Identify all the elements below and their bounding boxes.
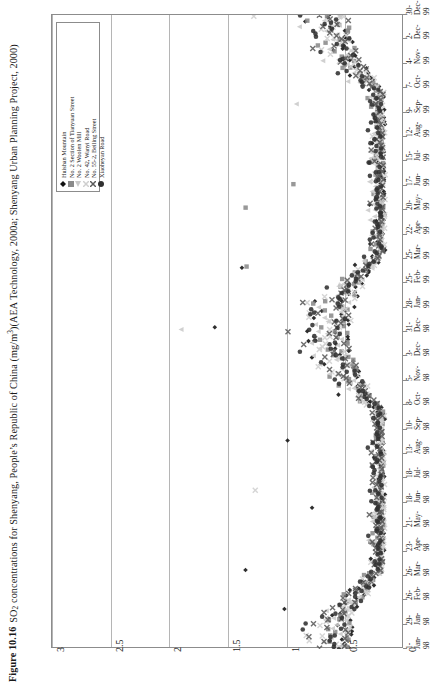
data-point: [298, 349, 303, 354]
legend-item-2: No. 2 Woolen Mill: [75, 27, 82, 187]
data-point: [379, 102, 384, 107]
x-tick-mark-20: [403, 160, 407, 161]
x-tick-mark-12: [403, 355, 407, 356]
data-point: [305, 18, 309, 22]
data-point: [343, 317, 348, 322]
data-point: [339, 337, 344, 342]
data-point: [368, 141, 373, 146]
cross-marker-icon: [90, 180, 97, 187]
data-point: [368, 488, 373, 493]
data-point: [379, 184, 384, 189]
data-point: [320, 634, 325, 639]
y-tick-label-3: 3: [55, 647, 66, 652]
legend-item-label: No. 2 Section of Tianyuan Street: [68, 97, 75, 178]
data-point: [373, 488, 378, 493]
data-point: [377, 170, 382, 175]
data-point: [377, 241, 382, 246]
x-tick-mark-5: [403, 526, 407, 527]
data-point: [348, 73, 353, 78]
x-tick-mark-9: [403, 429, 407, 430]
x-tick-mark-22: [403, 112, 407, 113]
data-point: [366, 445, 371, 450]
x-tick-label-5: 21-May-98: [406, 511, 431, 527]
x-tick-mark-24: [403, 63, 407, 64]
data-point: [352, 368, 357, 373]
data-point: [332, 642, 337, 647]
data-point: [329, 20, 334, 25]
data-point: [369, 569, 374, 574]
x-tick-label-21: 12-Aug-99: [406, 122, 431, 137]
data-point: [372, 86, 377, 91]
data-point: [359, 599, 364, 604]
data-point: [346, 18, 351, 23]
data-point: [342, 61, 347, 66]
x-tick-label-12: 3-Dec-98: [406, 342, 431, 356]
data-point: [339, 291, 344, 296]
legend-item-0: Huishan Mountain: [60, 27, 67, 187]
data-point: [351, 386, 356, 391]
x-tick-mark-15: [403, 282, 407, 283]
data-point: [343, 297, 348, 302]
data-point: [243, 568, 248, 573]
data-point: [367, 585, 372, 590]
data-point: [371, 235, 376, 240]
chart-area: 00.511.522.53 1-Jan-9829-Jan-9826-Feb-98…: [0, 0, 442, 684]
x-tick-mark-16: [403, 258, 407, 259]
x-tick-label-26: 30-Dec-99: [406, 1, 431, 15]
legend-item-label: Xiaoheyan Road: [98, 137, 105, 178]
data-point: [300, 627, 305, 632]
data-point: [328, 346, 333, 351]
x-tick-label-22: 9-Sep-99: [406, 99, 431, 113]
data-point: [212, 325, 217, 330]
data-point: [340, 616, 345, 621]
data-point: [313, 338, 318, 343]
data-point: [366, 574, 371, 579]
data-point: [360, 74, 365, 79]
x-tick-label-8: 13-Aug-98: [406, 439, 431, 454]
data-point: [294, 101, 299, 106]
data-point: [347, 25, 351, 29]
data-point: [325, 36, 330, 41]
x-tick-label-20: 15-Jul-99: [406, 150, 431, 161]
data-point: [346, 289, 351, 294]
data-point: [375, 567, 380, 572]
data-point: [368, 99, 373, 104]
x-tick-label-0: 1-Jan-98: [406, 637, 431, 649]
data-point: [335, 325, 340, 330]
x-tick-mark-14: [403, 307, 407, 308]
data-point: [369, 499, 374, 504]
x-tick-label-18: 20-May-99: [406, 194, 431, 210]
data-point: [321, 648, 326, 649]
x-tick-label-13: 31-Dec-98: [406, 318, 431, 332]
data-point: [285, 329, 290, 334]
data-point: [342, 622, 347, 627]
data-point: [367, 217, 372, 222]
data-point: [346, 387, 351, 392]
data-point: [310, 323, 315, 328]
data-point: [320, 614, 325, 619]
y-tick-label-1: 1: [290, 647, 301, 652]
data-point: [353, 263, 358, 268]
data-point: [378, 151, 383, 156]
data-point: [375, 202, 380, 207]
x-tick-label-10: 8-Oct-98: [406, 392, 431, 405]
data-point: [377, 515, 382, 520]
data-point: [360, 84, 365, 89]
data-point: [322, 335, 327, 340]
data-point: [322, 294, 327, 299]
data-point: [333, 340, 338, 345]
data-point: [307, 327, 312, 332]
data-point: [318, 338, 322, 342]
data-point: [327, 638, 332, 643]
data-point: [340, 277, 344, 281]
data-point: [322, 354, 327, 359]
data-point: [330, 605, 335, 610]
data-point: [330, 626, 335, 631]
data-point: [369, 120, 374, 125]
data-point: [333, 611, 338, 616]
x-tick-mark-11: [403, 380, 407, 381]
data-point: [377, 165, 382, 170]
data-point: [330, 27, 335, 32]
data-point: [368, 174, 373, 179]
data-point: [316, 329, 321, 334]
